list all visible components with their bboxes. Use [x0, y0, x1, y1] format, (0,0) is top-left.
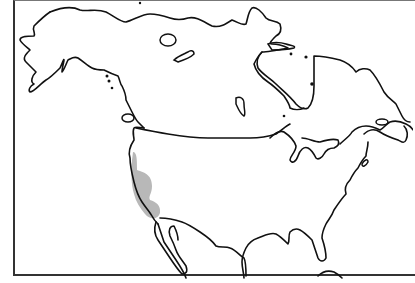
great-lakes: [270, 131, 339, 162]
cuba-outline: [318, 271, 342, 278]
coastline-east-canada: [340, 121, 413, 144]
island-newfoundland: [376, 119, 388, 125]
coastline-atlantic: [242, 142, 368, 278]
coastline-north: [50, 8, 410, 122]
islet-dot-7: [283, 115, 286, 118]
islet-dot-8: [139, 2, 141, 4]
border-us-canada: [136, 124, 290, 138]
island-arctic-2: [174, 51, 194, 62]
islet-dot-6: [310, 82, 314, 86]
coastline-mexico: [158, 224, 186, 278]
maritimes: [364, 126, 407, 142]
islet-dot-4: [290, 53, 293, 56]
coastline-alaska-west: [20, 12, 144, 128]
islet-dot-3: [111, 87, 114, 90]
island-vancouver: [122, 114, 134, 122]
island-southampton: [236, 97, 245, 116]
island-arctic-1: [160, 34, 176, 46]
islet-dot-2: [108, 80, 111, 83]
islet-dot-1: [106, 75, 109, 78]
hudson-bay: [254, 52, 304, 110]
islet-dot-5: [304, 55, 307, 58]
